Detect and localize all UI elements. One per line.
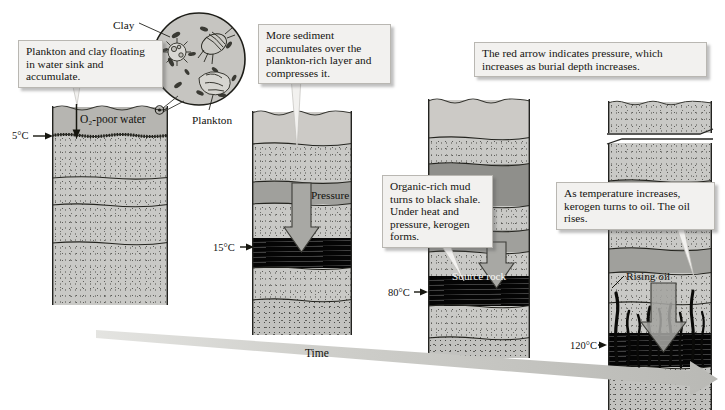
stage-1-temperature-label: 5°C [12, 130, 28, 141]
stage-3-temperature-label: 80°C [388, 287, 410, 298]
s4-layer-sed-1 [608, 141, 712, 181]
source-rock-label: Source rock [452, 270, 506, 282]
stage-4-callout: As temperature increases, kerogen turns … [556, 182, 715, 230]
rising-oil-label: Rising oil [626, 270, 670, 282]
s4-layer-source-rock [608, 333, 712, 367]
stage-1-callout: Plankton and clay floating in water sink… [18, 40, 163, 88]
plankton-label: Plankton [192, 114, 232, 126]
s4-layer-reservoir [608, 273, 712, 333]
clay-label: Clay [113, 19, 134, 31]
s4-layer-sed-3 [608, 367, 712, 410]
pressure-arrow-label: Pressure [311, 189, 349, 201]
pressure-note-callout: The red arrow indicates pressure, which … [474, 42, 707, 77]
o2-poor-water-label: O₂-poor water [80, 113, 146, 125]
s4-upper-sediment [608, 102, 712, 136]
stage-4-rock-column-upper [608, 96, 712, 136]
stage-2-callout: More sediment accumulates over the plank… [258, 24, 391, 84]
stage-3-callout: Organic-rich mud turns to black shale. U… [382, 175, 493, 248]
stage-2-temperature-label: 15°C [213, 242, 235, 253]
time-axis-label: Time [305, 347, 329, 359]
stage-4-temperature-label: 120°C [570, 340, 597, 351]
